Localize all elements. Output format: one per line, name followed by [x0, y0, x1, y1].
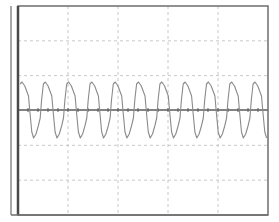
oscilloscope-chart — [0, 0, 279, 222]
